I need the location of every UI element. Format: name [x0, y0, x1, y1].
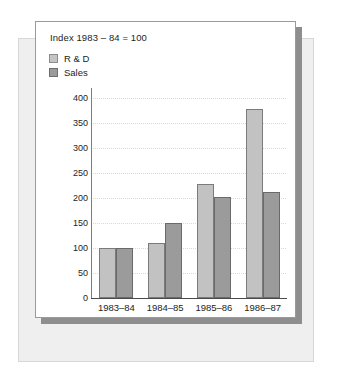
y-axis-tick-label: 100	[42, 243, 88, 253]
x-axis-line	[91, 298, 287, 299]
y-axis-tick-label: 150	[42, 218, 88, 228]
bar-sales	[165, 223, 182, 298]
bar-series-container	[92, 88, 287, 298]
bar-group	[148, 88, 182, 298]
chart-card: Index 1983 – 84 = 100 R & D Sales 050100…	[35, 21, 296, 318]
y-axis-tick-label: 350	[42, 118, 88, 128]
bar-rd	[246, 109, 263, 298]
bar-sales	[116, 248, 133, 298]
y-axis-tick-label: 400	[42, 93, 88, 103]
bar-sales	[214, 197, 231, 298]
bar-group	[197, 88, 231, 298]
y-axis-tick-labels: 050100150200250300350400	[36, 22, 88, 319]
x-axis-tick-label: 1986–87	[244, 302, 281, 313]
y-axis-tick-label: 300	[42, 143, 88, 153]
x-axis-tick-label: 1983–84	[98, 302, 135, 313]
bar-rd	[148, 243, 165, 298]
x-axis-tick-label: 1985–86	[195, 302, 232, 313]
bar-sales	[263, 192, 280, 298]
x-axis-tick-label: 1984–85	[147, 302, 184, 313]
plot-area: 050100150200250300350400 1983–841984–851…	[36, 22, 297, 319]
y-axis-tick-label: 250	[42, 168, 88, 178]
y-axis-tick-label: 200	[42, 193, 88, 203]
bar-rd	[197, 184, 214, 298]
bar-group	[99, 88, 133, 298]
figure-root: Index 1983 – 84 = 100 R & D Sales 050100…	[0, 0, 337, 387]
y-axis-tick-label: 50	[42, 268, 88, 278]
bar-group	[246, 88, 280, 298]
y-axis-tick-label: 0	[42, 293, 88, 303]
bar-rd	[99, 248, 116, 298]
